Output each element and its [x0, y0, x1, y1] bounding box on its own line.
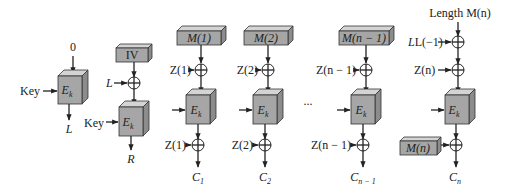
zn-label: Z(n): [414, 63, 435, 77]
mn-label: M(n): [405, 141, 430, 155]
message-columns: M(1)Z(1)EkZ(1)C1M(2)Z(2)EkZ(2)C2M(n − 1)…: [165, 26, 394, 186]
cn-output-label: Cn: [449, 170, 461, 186]
cipher-box: Ek: [186, 89, 216, 124]
mn-box: M(n): [400, 137, 441, 155]
message-column: M(n − 1)Z(n − 1)EkZ(n − 1)Cn − 1: [311, 26, 394, 186]
length-label: Length M(n): [429, 6, 491, 20]
cipher-box: Ek: [119, 101, 149, 136]
pre-xor-label: Z(2): [237, 63, 258, 77]
key-label: Key: [84, 116, 104, 130]
l-output-label: L: [65, 122, 73, 136]
post-xor-label: Z(2): [232, 138, 253, 152]
message-box: M(2): [244, 26, 293, 45]
message-label: M(2): [253, 31, 278, 45]
cipher-subscript: k: [363, 110, 367, 119]
key-label: Key: [20, 84, 40, 98]
cipher-subscript: k: [130, 122, 134, 131]
pre-xor-label: Z(1): [170, 63, 191, 77]
ciphertext-output-label: Cn − 1: [350, 170, 375, 186]
message-column: M(1)Z(1)EkZ(1)C1: [165, 26, 226, 186]
l-xor-label: L: [105, 76, 113, 90]
message-box: M(n − 1): [339, 26, 394, 45]
cipher-box: Ek: [58, 70, 88, 104]
setup-block-r: IV L Ek Key R: [84, 44, 152, 166]
cn-subscript: n: [457, 177, 461, 186]
cipher-box: Ek: [253, 89, 283, 124]
r-output-label: R: [126, 152, 135, 166]
message-box: M(1): [177, 26, 226, 45]
ciphertext-output-label: C1: [192, 170, 204, 186]
output-subscript: 1: [200, 177, 204, 186]
message-column: M(2)Z(2)EkZ(2)C2: [232, 26, 293, 186]
cipher-box: Ek: [445, 89, 475, 124]
message-label: M(1): [186, 31, 211, 45]
iv-label: IV: [126, 48, 139, 62]
final-block: Length M(n) LL(−1) Z(n) Ek M(n): [400, 6, 491, 186]
output-subscript: 2: [267, 177, 271, 186]
l-minus-one-label: LL(−1): [407, 35, 443, 49]
cipher-subscript: k: [265, 110, 269, 119]
pre-xor-label: Z(n − 1): [316, 63, 356, 77]
ellipsis: ...: [304, 94, 313, 108]
iv-box: IV: [116, 44, 152, 62]
cipher-subscript: k: [198, 110, 202, 119]
cipher-subscript: k: [69, 90, 73, 99]
cipher-subscript: k: [456, 110, 460, 119]
ocb-mode-diagram: 0 Ek Key L IV L Ek: [0, 0, 505, 194]
ciphertext-output-label: C2: [259, 170, 271, 186]
post-xor-label: Z(n − 1): [311, 138, 351, 152]
output-subscript: n − 1: [358, 177, 375, 186]
setup-block-l: 0 Ek Key L: [20, 40, 88, 136]
zero-input-label: 0: [70, 40, 76, 54]
message-label: M(n − 1): [341, 31, 386, 45]
cipher-box: Ek: [351, 89, 381, 124]
post-xor-label: Z(1): [165, 138, 186, 152]
